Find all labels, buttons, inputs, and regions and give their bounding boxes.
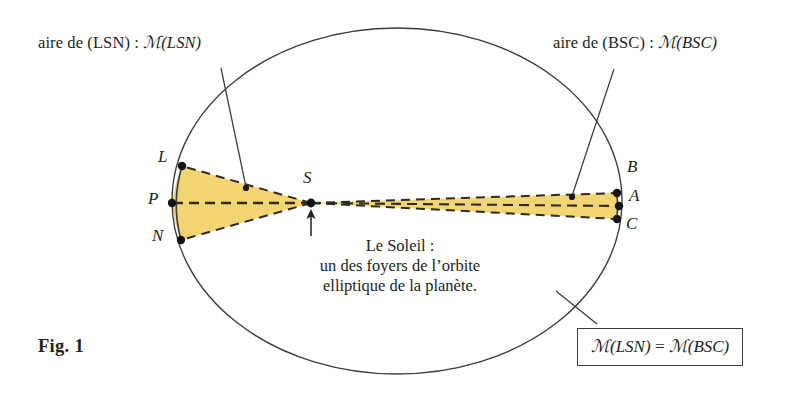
sun-caption-line-1: Le Soleil :: [255, 236, 545, 256]
point-marker-N: [177, 236, 185, 244]
result-left-args: (LSN): [610, 337, 651, 356]
point-marker-P: [168, 199, 176, 207]
annotation-bsc-prefix: aire de (BSC) :: [553, 33, 658, 52]
annotation-lsn-suffix: (LSN): [161, 33, 201, 52]
sun-caption: Le Soleil : un des foyers de l’orbite el…: [255, 236, 545, 296]
point-label-P: P: [148, 189, 158, 209]
leader-line-lsn: [221, 68, 246, 187]
result-left-script-letter: ℳ: [591, 336, 610, 356]
result-equals-sign: =: [651, 337, 669, 356]
point-label-L: L: [158, 147, 167, 167]
annotation-bsc-script-letter: ℳ: [658, 32, 676, 52]
point-marker-L: [178, 162, 186, 170]
point-label-B: B: [627, 157, 637, 177]
figure-container: aire de (LSN) : ℳ(LSN) aire de (BSC) : ℳ…: [0, 0, 810, 400]
annotation-lsn-prefix: aire de (LSN) :: [38, 33, 143, 52]
leader-line-bsc: [572, 69, 614, 196]
point-marker-C: [613, 215, 621, 223]
annotation-label-lsn: aire de (LSN) : ℳ(LSN): [38, 33, 201, 53]
point-label-S: S: [303, 168, 312, 188]
sun-caption-line-3: elliptique de la planète.: [255, 276, 545, 296]
point-marker-S: [307, 199, 316, 208]
result-right-args: (BSC): [688, 337, 730, 356]
annotation-bsc-suffix: (BSC): [676, 33, 717, 52]
point-marker-A: [615, 202, 623, 210]
leader-endpoint-lsn: [243, 185, 249, 191]
leader-endpoint-bsc: [569, 194, 575, 200]
point-marker-B: [613, 189, 621, 197]
result-right-script-letter: ℳ: [669, 336, 688, 356]
point-label-C: C: [626, 214, 637, 234]
annotation-lsn-script-letter: ℳ: [143, 32, 161, 52]
annotation-label-bsc: aire de (BSC) : ℳ(BSC): [553, 33, 717, 53]
sun-caption-line-2: un des foyers de l’orbite: [255, 256, 545, 276]
figure-number-label: Fig. 1: [38, 336, 84, 357]
result-equation-box: ℳ(LSN) = ℳ(BSC): [577, 328, 743, 366]
point-label-N: N: [152, 226, 163, 246]
point-label-A: A: [629, 186, 639, 206]
